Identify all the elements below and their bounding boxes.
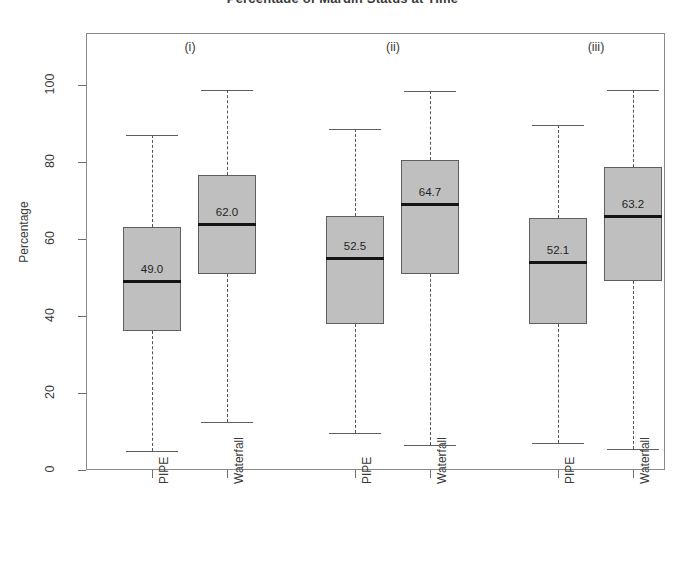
- x-tick-label-waterfall: Waterfall: [232, 437, 246, 484]
- y-tick-mark: [78, 239, 86, 240]
- median-line: [198, 223, 256, 226]
- whisker-cap-upper: [201, 90, 253, 91]
- whisker-upper: [558, 125, 559, 217]
- y-tick-label: 60: [43, 218, 57, 258]
- y-tick-label: 0: [43, 449, 57, 489]
- x-tick-mark: [227, 470, 228, 478]
- median-line: [326, 257, 384, 260]
- y-tick-mark: [78, 393, 86, 394]
- y-tick-label: 40: [43, 295, 57, 335]
- median-line: [123, 280, 181, 283]
- y-tick-label: 100: [43, 64, 57, 104]
- y-tick-label: 80: [43, 141, 57, 181]
- x-tick-mark: [633, 470, 634, 478]
- median-value-label: 52.1: [535, 244, 581, 256]
- median-value-label: 49.0: [129, 263, 175, 275]
- median-value-label: 64.7: [407, 186, 453, 198]
- boxplot-chart: Percentage of Margin Status at Time Perc…: [0, 0, 685, 578]
- whisker-lower: [430, 274, 431, 445]
- x-tick-label-waterfall: Waterfall: [638, 437, 652, 484]
- whisker-cap-lower: [126, 451, 178, 452]
- group-header-3: (iii): [556, 40, 636, 54]
- y-tick-label: 20: [43, 372, 57, 412]
- whisker-lower: [355, 324, 356, 434]
- y-tick-mark: [78, 470, 86, 471]
- whisker-cap-lower: [201, 422, 253, 423]
- whisker-cap-lower: [532, 443, 584, 444]
- chart-title: Percentage of Margin Status at Time: [0, 0, 685, 3]
- whisker-cap-lower: [607, 449, 659, 450]
- group-header-1: (i): [150, 40, 230, 54]
- whisker-cap-upper: [404, 91, 456, 92]
- whisker-upper: [355, 129, 356, 216]
- whisker-cap-upper: [607, 90, 659, 91]
- x-tick-label-pipe: PIPE: [360, 457, 374, 484]
- median-line: [529, 261, 587, 264]
- box-iqr: [529, 218, 587, 324]
- whisker-cap-lower: [329, 433, 381, 434]
- x-tick-mark: [355, 470, 356, 478]
- y-axis-label: Percentage: [17, 172, 31, 292]
- y-tick-mark: [78, 85, 86, 86]
- whisker-upper: [633, 90, 634, 167]
- whisker-lower: [633, 281, 634, 448]
- whisker-cap-upper: [532, 125, 584, 126]
- whisker-cap-upper: [329, 129, 381, 130]
- whisker-upper: [152, 135, 153, 227]
- x-tick-label-pipe: PIPE: [563, 457, 577, 484]
- median-value-label: 52.5: [332, 240, 378, 252]
- whisker-lower: [227, 274, 228, 422]
- median-line: [604, 215, 662, 218]
- median-line: [401, 203, 459, 206]
- x-tick-label-pipe: PIPE: [157, 457, 171, 484]
- median-value-label: 63.2: [610, 198, 656, 210]
- y-tick-mark: [78, 162, 86, 163]
- box-iqr: [401, 160, 459, 274]
- box-iqr: [326, 216, 384, 324]
- whisker-lower: [152, 331, 153, 450]
- whisker-upper: [430, 91, 431, 160]
- whisker-cap-upper: [126, 135, 178, 136]
- y-tick-mark: [78, 316, 86, 317]
- whisker-cap-lower: [404, 445, 456, 446]
- x-tick-mark: [430, 470, 431, 478]
- x-tick-mark: [558, 470, 559, 478]
- group-header-2: (ii): [353, 40, 433, 54]
- median-value-label: 62.0: [204, 206, 250, 218]
- x-tick-mark: [152, 470, 153, 478]
- whisker-lower: [558, 324, 559, 443]
- whisker-upper: [227, 90, 228, 176]
- box-iqr: [604, 167, 662, 282]
